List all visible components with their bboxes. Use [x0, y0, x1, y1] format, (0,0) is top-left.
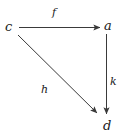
node-label-a: a [104, 19, 112, 32]
edge-label-k: k [110, 76, 117, 87]
node-label-d: d [103, 119, 111, 132]
commutative-diagram: c a d f k h [0, 0, 128, 138]
node-label-c: c [5, 20, 12, 33]
arrow-h-c-to-d [18, 35, 97, 113]
edge-label-f: f [52, 7, 56, 18]
edge-label-h: h [41, 84, 48, 95]
